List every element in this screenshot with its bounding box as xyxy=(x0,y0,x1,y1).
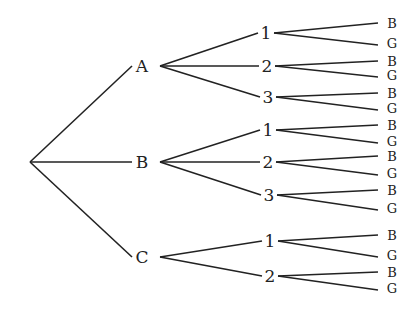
edge-A-3 xyxy=(160,66,260,97)
edge-B1-B xyxy=(276,125,378,130)
leaf-G: G xyxy=(387,282,397,295)
node-A2: 2 xyxy=(262,58,273,75)
node-C: C xyxy=(135,249,148,266)
node-A1: 1 xyxy=(261,25,272,42)
tree-edges xyxy=(0,0,416,311)
node-C1: 1 xyxy=(265,233,276,250)
edge-B-1 xyxy=(160,130,260,162)
leaf-G: G xyxy=(387,202,397,215)
edge-C1-B xyxy=(278,235,378,241)
leaf-B: B xyxy=(387,87,397,100)
edge-B2-B xyxy=(276,156,378,162)
edge-A-1 xyxy=(160,33,258,66)
leaf-B: B xyxy=(387,17,397,30)
leaf-B: B xyxy=(387,55,397,68)
leaf-G: G xyxy=(387,135,397,148)
edge-A1-B xyxy=(274,23,378,33)
node-B1: 1 xyxy=(263,122,274,139)
leaf-G: G xyxy=(387,249,397,262)
leaf-G: G xyxy=(387,102,397,115)
leaf-B: B xyxy=(387,184,397,197)
edge-C2-B xyxy=(278,272,378,276)
node-A3: 3 xyxy=(263,89,274,106)
edge-A3-G xyxy=(276,97,378,110)
leaf-G: G xyxy=(387,69,397,82)
node-B3: 3 xyxy=(264,187,275,204)
edge-A2-G xyxy=(275,66,378,77)
node-C2: 2 xyxy=(265,268,276,285)
edge-C1-G xyxy=(278,241,378,257)
edge-A2-B xyxy=(275,61,378,66)
leaf-B: B xyxy=(387,119,397,132)
edge-C-2 xyxy=(160,257,262,276)
edge-A1-G xyxy=(274,33,378,45)
leaf-G: G xyxy=(387,37,397,50)
leaf-B: B xyxy=(387,266,397,279)
edge-B3-B xyxy=(277,190,378,195)
node-B: B xyxy=(136,154,149,171)
edge-C2-G xyxy=(278,276,378,290)
edge-root-C xyxy=(30,162,132,257)
edge-B2-G xyxy=(276,162,378,175)
edge-B3-G xyxy=(277,195,378,210)
leaf-B: B xyxy=(387,229,397,242)
leaf-G: G xyxy=(387,167,397,180)
node-A: A xyxy=(136,58,148,75)
leaf-B: B xyxy=(387,150,397,163)
node-B2: 2 xyxy=(263,154,274,171)
edge-C-1 xyxy=(160,241,262,257)
edge-root-A xyxy=(30,66,132,162)
edge-B-3 xyxy=(160,162,261,195)
edge-A3-B xyxy=(276,93,378,97)
edge-B1-G xyxy=(276,130,378,143)
